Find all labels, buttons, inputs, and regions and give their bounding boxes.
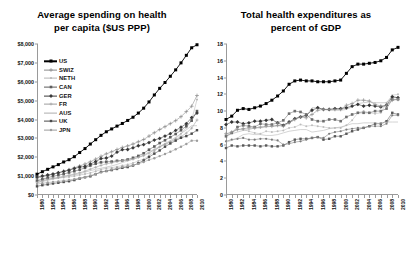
legend-marker-icon — [44, 83, 57, 92]
chart-panel-gdp: Total health expenditures as percent of … — [204, 0, 408, 254]
x-tick-label: 2008 — [389, 199, 395, 210]
y-tick-label: $5,000 — [18, 98, 35, 104]
plot-box-gdp: 024681012141618 198019821984198619881990… — [226, 44, 398, 195]
x-tick-label: 2006 — [178, 199, 184, 210]
x-tick-label: 1986 — [71, 199, 77, 210]
series-canvas-gdp — [226, 44, 398, 195]
x-tick-label: 2004 — [167, 199, 173, 210]
series-uk — [36, 129, 198, 188]
series-ger — [224, 95, 400, 127]
x-tick-label: 2004 — [366, 199, 372, 210]
y-tick-label: 10 — [217, 108, 223, 114]
x-tick-label: 1988 — [274, 199, 280, 210]
x-tick-label: 1988 — [82, 199, 88, 210]
legend-item-label: US — [57, 58, 67, 64]
figure-root: Average spending on health per capita ($… — [0, 0, 408, 254]
y-tick-label: $2,000 — [18, 154, 35, 160]
chart-title-line2: per capita ($US PPP) — [0, 22, 204, 35]
chart-panel-spending: Average spending on health per capita ($… — [0, 0, 204, 254]
legend-marker-icon — [44, 91, 57, 100]
x-tick-mark — [197, 195, 198, 198]
legend-item-ger[interactable]: GER — [44, 91, 75, 100]
legend-marker-icon — [44, 100, 57, 109]
y-tick-label: 18 — [217, 41, 223, 47]
x-tick-label: 1986 — [262, 199, 268, 210]
x-tick-label: 2010 — [400, 199, 406, 210]
series-line — [226, 99, 398, 136]
legend-item-neth[interactable]: NETH — [44, 74, 75, 83]
legend-item-label: CAN — [57, 84, 72, 90]
x-tick-label: 2002 — [156, 199, 162, 210]
x-tick-label: 1996 — [320, 199, 326, 210]
chart-title-line1: Total health expenditures as — [204, 9, 408, 22]
x-tick-label: 1992 — [297, 199, 303, 210]
legend-item-label: GER — [57, 93, 72, 99]
x-tick-label: 2000 — [343, 199, 349, 210]
x-tick-label: 1982 — [50, 199, 56, 210]
legend-item-can[interactable]: CAN — [44, 83, 75, 92]
x-tick-label: 1998 — [331, 199, 337, 210]
legend-item-uk[interactable]: UK — [44, 117, 75, 126]
series-uk — [225, 112, 399, 150]
series-swiz — [224, 97, 400, 135]
x-tick-label: 2000 — [146, 199, 152, 210]
legend-item-label: FR — [57, 101, 67, 107]
x-tick-label: 1984 — [251, 199, 257, 210]
y-tick-label: 12 — [217, 91, 223, 97]
y-tick-label: $3,000 — [18, 135, 35, 141]
x-tick-label: 2008 — [188, 199, 194, 210]
legend-item-fr[interactable]: FR — [44, 100, 75, 109]
legend-marker-icon — [44, 109, 57, 118]
chart-title-spending: Average spending on health per capita ($… — [0, 9, 204, 34]
legend-marker-icon — [44, 126, 57, 135]
y-tick-label: $7,000 — [18, 60, 35, 66]
legend-item-label: NETH — [57, 75, 75, 81]
x-tick-label: 1992 — [103, 199, 109, 210]
legend-marker-icon — [44, 57, 57, 66]
x-tick-label: 1990 — [92, 199, 98, 210]
legend-item-label: AUS — [57, 110, 72, 116]
y-tick-label: $4,000 — [18, 117, 35, 123]
y-tick-label: $0 — [28, 192, 34, 198]
legend-marker-icon — [44, 74, 57, 83]
x-tick-label: 2002 — [354, 199, 360, 210]
chart-title-line1: Average spending on health — [0, 9, 204, 22]
plot-area-gdp: 024681012141618 198019821984198619881990… — [226, 44, 398, 195]
legend-item-aus[interactable]: AUS — [44, 109, 75, 118]
y-tick-label: 14 — [217, 75, 223, 81]
x-tick-label: 1984 — [60, 199, 66, 210]
x-tick-label: 1980 — [39, 199, 45, 210]
x-tick-label: 1980 — [228, 199, 234, 210]
legend-item-label: UK — [57, 118, 68, 124]
legend-item-us[interactable]: US — [44, 57, 75, 66]
x-tick-label: 1996 — [124, 199, 130, 210]
legend-item-jpn[interactable]: JPN — [44, 126, 75, 135]
legend-spending: USSWIZNETHCANGERFRAUSUKJPN — [44, 57, 75, 134]
x-tick-mark — [398, 195, 399, 198]
x-tick-label: 1990 — [285, 199, 291, 210]
chart-title-gdp: Total health expenditures as percent of … — [204, 9, 408, 34]
y-tick-label: 16 — [217, 58, 223, 64]
legend-item-swiz[interactable]: SWIZ — [44, 66, 75, 75]
x-tick-label: 2006 — [377, 199, 383, 210]
chart-title-line2: percent of GDP — [204, 22, 408, 35]
legend-item-label: SWIZ — [57, 67, 74, 73]
x-tick-label: 1982 — [239, 199, 245, 210]
legend-marker-icon — [44, 66, 57, 75]
y-tick-label: $8,000 — [18, 41, 35, 47]
x-tick-label: 1994 — [114, 199, 120, 210]
legend-item-label: JPN — [57, 127, 71, 133]
legend-marker-icon — [44, 117, 57, 126]
x-tick-label: 1994 — [308, 199, 314, 210]
y-tick-label: $1,000 — [18, 173, 35, 179]
y-tick-label: $6,000 — [18, 79, 35, 85]
series-line — [226, 113, 398, 148]
x-tick-label: 1998 — [135, 199, 141, 210]
